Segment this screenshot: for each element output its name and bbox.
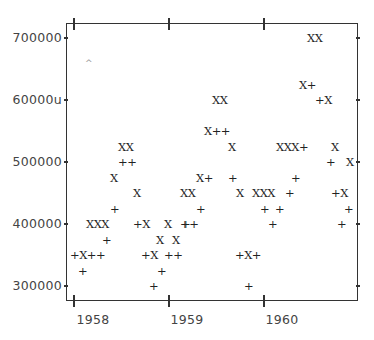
data-marker-run: +X++ [70, 249, 105, 261]
data-marker-run: X [331, 141, 339, 153]
data-marker-run: X [164, 218, 172, 230]
data-marker-run: XX [180, 187, 195, 199]
y-tick-600000 [64, 99, 68, 101]
y-axis-label-700000: 700000 [2, 31, 62, 45]
data-marker-run: + [196, 203, 205, 215]
x-tick-1958 [73, 295, 75, 307]
data-marker-run: +X+ [235, 249, 261, 261]
data-marker-run: XX [212, 94, 227, 106]
data-marker-run: +X [133, 218, 150, 230]
plot-area-frame [66, 23, 358, 301]
y-tick-700000 [64, 37, 68, 39]
data-marker-run: + [268, 218, 277, 230]
x-tick-top-1960 [263, 18, 265, 30]
x-tick-top-1958 [73, 18, 75, 30]
data-marker-run: XXX+ [276, 141, 308, 153]
data-marker-run: X [156, 234, 164, 246]
data-marker-run: X [346, 156, 354, 168]
data-marker-run: + [285, 187, 294, 199]
data-marker-run: X++ [204, 125, 230, 137]
y-tick-300000 [64, 285, 68, 287]
x-axis-label-1960: 1960 [257, 313, 307, 327]
data-marker-run: ++ [118, 156, 136, 168]
data-marker-run: + [102, 234, 111, 246]
data-marker-run: +X [331, 187, 348, 199]
y-tick-right-400000 [356, 223, 360, 225]
data-marker-run: + [228, 172, 237, 184]
data-marker-run: X [133, 187, 141, 199]
data-marker-run: ++ [164, 249, 182, 261]
y-tick-400000 [64, 223, 68, 225]
y-tick-right-300000 [356, 285, 360, 287]
data-marker-run: + [275, 203, 284, 215]
scan-speck: ^ [85, 58, 93, 68]
data-marker-run: + [244, 280, 253, 292]
y-tick-right-700000 [356, 37, 360, 39]
data-marker-run: X+ [196, 172, 213, 184]
data-marker-run: XX [118, 141, 133, 153]
x-tick-1959 [168, 295, 170, 307]
data-marker-run: XX [307, 32, 322, 44]
data-marker-run: X [172, 234, 180, 246]
x-axis-label-1958: 1958 [68, 313, 118, 327]
data-marker-run: + [149, 280, 158, 292]
data-marker-run: + [337, 218, 346, 230]
y-axis-label-400000: 400000 [2, 217, 62, 231]
data-marker-run: + [157, 265, 166, 277]
data-marker-run: XXX [86, 218, 109, 230]
data-marker-run: X+ [299, 79, 316, 91]
data-marker-run: X [236, 187, 244, 199]
data-marker-run: + [78, 265, 87, 277]
data-marker-run: + [291, 172, 300, 184]
data-marker-run: X [110, 172, 118, 184]
data-marker-run: + [326, 156, 335, 168]
data-marker-run: XXX [252, 187, 275, 199]
y-axis-label-300000: 300000 [2, 279, 62, 293]
x-tick-top-1959 [168, 18, 170, 30]
data-marker-run: + [110, 203, 119, 215]
data-marker-run: ++ [180, 218, 198, 230]
data-marker-run: +X [315, 94, 332, 106]
y-tick-500000 [64, 161, 68, 163]
y-tick-right-600000 [356, 99, 360, 101]
data-marker-run: X [228, 141, 236, 153]
y-tick-right-500000 [356, 161, 360, 163]
y-axis-label-500000: 500000 [2, 155, 62, 169]
y-axis-label-600000: 60000u [2, 93, 62, 107]
data-marker-run: +X [141, 249, 158, 261]
x-axis-label-1959: 1959 [162, 313, 212, 327]
data-marker-run: + [344, 203, 353, 215]
x-tick-1960 [263, 295, 265, 307]
data-marker-run: + [260, 203, 269, 215]
